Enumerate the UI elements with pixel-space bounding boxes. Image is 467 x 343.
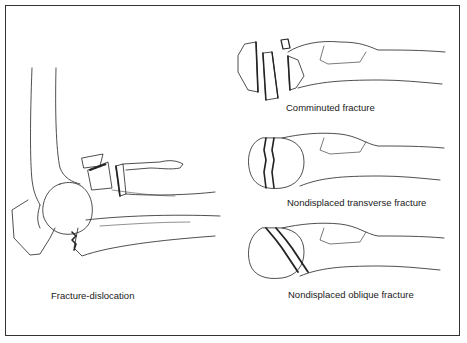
label-comminuted-fracture: Comminuted fracture [286, 102, 375, 113]
comminuted-fracture-illustration [238, 39, 445, 100]
label-fracture-dislocation: Fracture-dislocation [51, 290, 134, 301]
transverse-fracture-illustration [249, 133, 445, 188]
label-transverse-fracture: Nondisplaced transverse fracture [287, 197, 426, 208]
fracture-dislocation-illustration [12, 68, 220, 256]
label-oblique-fracture: Nondisplaced oblique fracture [288, 289, 414, 300]
oblique-fracture-illustration [249, 223, 445, 278]
